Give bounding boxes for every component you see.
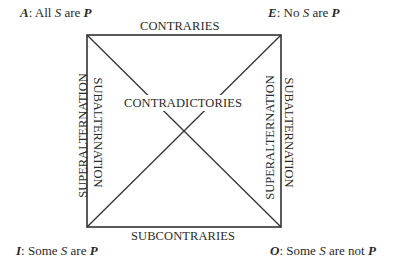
contradictories-label: CONTRADICTORIES [124,97,242,110]
letter-o: O [270,243,279,258]
text: are not [326,243,368,258]
corner-a-label: A: All S are P [20,6,92,20]
var-p: P [84,5,92,20]
sep: : [21,243,28,258]
superalternation-left-label: SUPERALTERNATION [77,73,90,199]
letter-e: E [268,5,277,20]
subalternation-right-label: SUBALTERNATION [282,78,295,188]
subcontraries-label: SUBCONTRARIES [131,230,235,243]
superalternation-right-label: SUPERALTERNATION [264,75,277,201]
text: are [61,5,83,20]
letter-a: A [20,5,29,20]
var-p: P [90,243,98,258]
sep: : [277,5,284,20]
var-p: P [332,5,340,20]
text: No [284,5,303,20]
text: are [67,243,89,258]
text: are [309,5,331,20]
subalternation-left-label: SUBALTERNATION [91,78,104,188]
var-p: P [368,243,376,258]
corner-i-label: I: Some S are P [16,244,98,258]
corner-o-label: O: Some S are not P [270,244,376,258]
corner-e-label: E: No S are P [268,6,340,20]
text: Some [286,243,319,258]
text: All [35,5,55,20]
contraries-label: CONTRARIES [140,20,219,33]
text: Some [28,243,61,258]
